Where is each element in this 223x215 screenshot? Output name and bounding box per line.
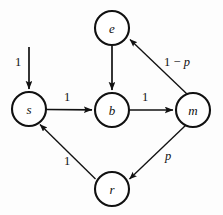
node-s: s <box>12 92 46 126</box>
edge-label-m-to-e-prefix: 1 − <box>164 55 184 69</box>
edge-label-m-to-r: p <box>164 149 171 163</box>
edge-label-b-to-m: 1 <box>142 90 148 104</box>
edge-label-r-to-s: 1 <box>64 154 70 168</box>
edge-label-s-to-b: 1 <box>64 90 70 104</box>
diagram-canvas: e s b m r 1 1 1 1 1 − p p <box>0 0 223 215</box>
node-e: e <box>95 11 129 45</box>
node-m-label: m <box>188 103 197 118</box>
node-b-label: b <box>109 103 116 118</box>
edge-label-entry-to-s: 1 <box>15 55 21 69</box>
state-diagram-figure: e s b m r 1 1 1 1 1 − p p <box>0 0 223 215</box>
edge-r-to-s <box>40 125 96 180</box>
node-b: b <box>95 93 129 127</box>
edge-label-m-to-r-text: p <box>164 149 171 163</box>
node-s-label: s <box>26 102 31 117</box>
node-e-label: e <box>109 21 115 36</box>
edge-label-m-to-e-variable: p <box>183 55 190 69</box>
edge-m-to-r <box>130 125 187 179</box>
node-r: r <box>95 172 129 206</box>
node-m: m <box>176 93 210 127</box>
edge-label-m-to-e: 1 − p <box>164 55 190 69</box>
